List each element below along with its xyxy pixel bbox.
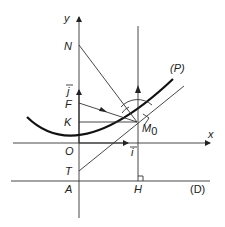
point-k-label: K bbox=[64, 116, 72, 128]
point-a-label: A bbox=[64, 183, 72, 195]
right-angle-h bbox=[138, 176, 143, 181]
point-o-label: O bbox=[65, 145, 74, 157]
vertical-arrow bbox=[135, 85, 141, 93]
parabola-diagram: y x N j F K O T A H M0 i (P) (D) bbox=[0, 0, 225, 227]
normal-line bbox=[79, 45, 137, 122]
y-axis-label: y bbox=[63, 12, 71, 24]
focal-ray-arrow bbox=[99, 107, 107, 112]
vector-j-label: j bbox=[65, 85, 70, 97]
point-m0-label: M0 bbox=[142, 122, 157, 137]
tangent-line bbox=[79, 86, 184, 171]
directrix-label: (D) bbox=[190, 183, 205, 195]
point-t-label: T bbox=[65, 165, 73, 177]
parabola-label: (P) bbox=[170, 62, 185, 74]
vector-i-label: i bbox=[131, 146, 134, 158]
x-axis-label: x bbox=[207, 128, 214, 140]
focal-ray bbox=[79, 103, 137, 122]
point-f-label: F bbox=[65, 98, 73, 110]
point-n-label: N bbox=[64, 40, 72, 52]
point-h-label: H bbox=[134, 183, 142, 195]
